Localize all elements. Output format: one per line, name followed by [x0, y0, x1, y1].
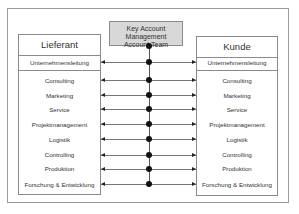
- supplier-title: Lieferant: [19, 35, 100, 56]
- junction-dot-icon: [146, 136, 152, 142]
- arrow-left-icon: [101, 122, 105, 126]
- customer-item-consulting: Consulting: [197, 77, 277, 85]
- arrow-left-icon: [101, 182, 105, 186]
- arrow-right-icon: [192, 153, 196, 157]
- supplier-item-forschung: Forschung & Entwicklung: [19, 181, 100, 189]
- arrow-left-icon: [101, 153, 105, 157]
- customer-box: Kunde Unternehmensleitung Consulting Mar…: [196, 36, 278, 196]
- customer-item-service: Service: [197, 106, 277, 114]
- arrow-left-icon: [101, 60, 105, 64]
- junction-dot-icon: [146, 92, 152, 98]
- account-team-box: Key Account Management Account Team: [109, 21, 183, 46]
- arrow-left-icon: [101, 93, 105, 97]
- supplier-item-produktion: Produktion: [19, 165, 100, 173]
- junction-dot-icon: [146, 106, 152, 112]
- arrow-right-icon: [192, 60, 196, 64]
- supplier-item-controlling: Controlling: [19, 151, 100, 159]
- arrow-left-icon: [101, 78, 105, 82]
- supplier-box: Lieferant Unternehmensleitung Consulting…: [18, 34, 101, 195]
- customer-item-controlling: Controlling: [197, 151, 277, 159]
- junction-dot-icon: [146, 121, 152, 127]
- junction-dot-icon: [146, 59, 152, 65]
- supplier-item-marketing: Marketing: [19, 92, 100, 100]
- customer-item-produktion: Produktion: [197, 165, 277, 173]
- supplier-item-consulting: Consulting: [19, 77, 100, 85]
- customer-item-logistik: Logistik: [197, 136, 277, 144]
- supplier-item-logistik: Logistik: [19, 136, 100, 144]
- supplier-item-service: Service: [19, 106, 100, 114]
- account-team-line1: Key Account Management: [110, 25, 182, 41]
- junction-dot-icon: [146, 152, 152, 158]
- arrow-right-icon: [192, 167, 196, 171]
- supplier-management: Unternehmensleitung: [19, 56, 100, 71]
- arrow-right-icon: [192, 182, 196, 186]
- arrow-left-icon: [101, 167, 105, 171]
- customer-item-marketing: Marketing: [197, 92, 277, 100]
- customer-item-forschung: Forschung & Entwicklung: [197, 181, 277, 189]
- customer-title: Kunde: [197, 37, 277, 58]
- arrow-right-icon: [192, 122, 196, 126]
- center-connector-line: [149, 46, 150, 185]
- customer-item-projektmanagement: Projektmanagement: [197, 121, 277, 129]
- customer-management: Unternehmensleitung: [197, 56, 277, 71]
- junction-dot-icon: [146, 181, 152, 187]
- arrow-right-icon: [192, 137, 196, 141]
- arrow-left-icon: [101, 107, 105, 111]
- supplier-item-projektmanagement: Projektmanagement: [19, 121, 100, 129]
- arrow-right-icon: [192, 93, 196, 97]
- junction-dot-icon: [146, 166, 152, 172]
- arrow-right-icon: [192, 107, 196, 111]
- arrow-right-icon: [192, 78, 196, 82]
- arrow-left-icon: [101, 137, 105, 141]
- team-junction-dot-icon: [146, 43, 152, 49]
- junction-dot-icon: [146, 77, 152, 83]
